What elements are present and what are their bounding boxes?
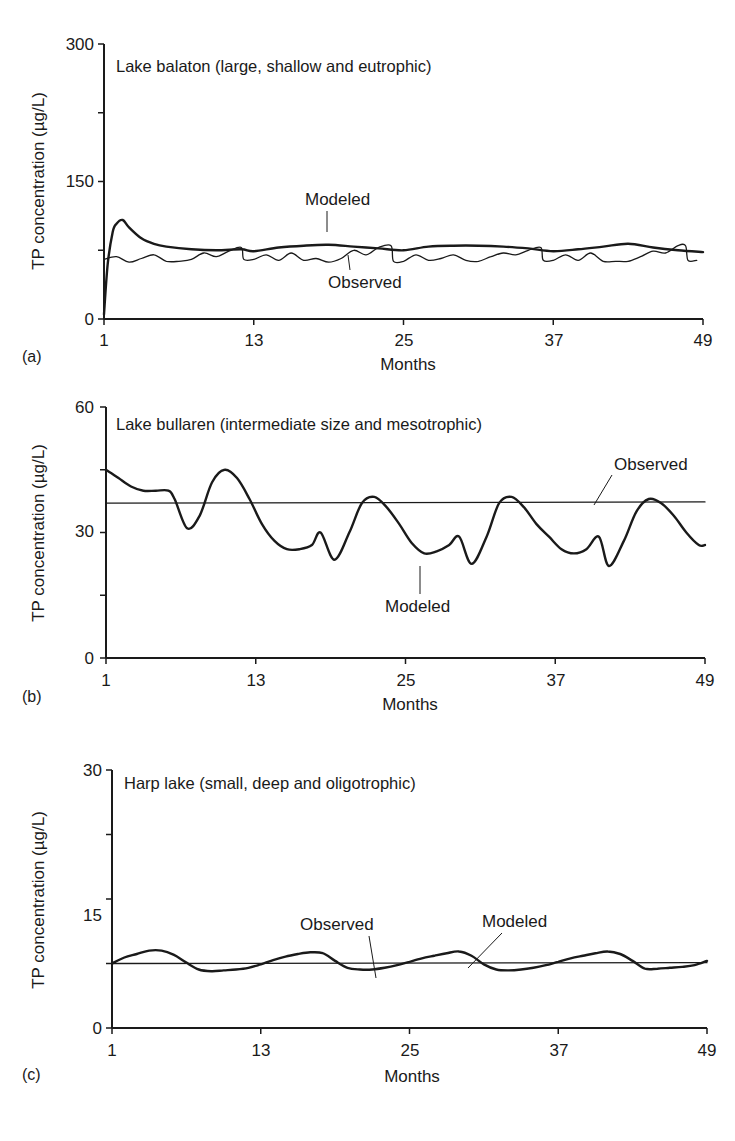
panel-c-annot-observed: Observed	[300, 915, 374, 934]
panel-a-ylabel: TP concentration (µg/L)	[29, 92, 48, 270]
panel-a-title: Lake balaton (large, shallow and eutroph…	[116, 57, 432, 75]
panel-b-ytick-0: 0	[85, 649, 94, 668]
panel-c-xtick-1: 1	[107, 1041, 116, 1060]
panel-b-xtick-49: 49	[696, 671, 715, 690]
panel-c-xtick-49: 49	[698, 1041, 717, 1060]
panel-c-chart: Harp lake (small, deep and oligotrophic)…	[22, 761, 716, 1086]
caption-remnant	[0, 1130, 735, 1141]
panel-a-annot-modeled: Modeled	[305, 190, 370, 209]
series-line-modeled	[104, 220, 703, 314]
panel-c-leader-observed	[369, 936, 376, 978]
panel-a-xtick-25: 25	[395, 331, 414, 350]
series-line-modeled	[112, 950, 707, 971]
panel-b-ytick-30: 30	[75, 522, 94, 541]
panel-c-axes	[106, 770, 707, 1034]
panel-b-xtick-13: 13	[247, 671, 266, 690]
panel-a-ytick-150: 150	[66, 172, 94, 191]
panel-a-chart: Lake balaton (large, shallow and eutroph…	[22, 35, 712, 374]
panel-a-xtick-1: 1	[99, 331, 108, 350]
panel-c-ylabel: TP concentration (µg/L)	[29, 811, 48, 989]
panel-c-ytick-0: 0	[93, 1019, 102, 1038]
panel-b-axes	[100, 407, 705, 664]
panel-a-xtick-13: 13	[245, 331, 264, 350]
panel-b-xlabel: Months	[382, 695, 438, 714]
panel-c-title: Harp lake (small, deep and oligotrophic)	[124, 774, 416, 792]
panel-b-lines	[106, 470, 705, 566]
panel-a-xlabel: Months	[380, 355, 436, 374]
panel-c-ytick-15: 15	[83, 906, 102, 925]
panel-b-title: Lake bullaren (intermediate size and mes…	[116, 415, 482, 433]
panel-b-xtick-1: 1	[101, 671, 110, 690]
series-line-observed	[106, 502, 705, 503]
figure-canvas: Lake balaton (large, shallow and eutroph…	[0, 0, 735, 1141]
panel-a-letter: (a)	[22, 348, 42, 365]
panel-c-xtick-13: 13	[252, 1041, 271, 1060]
panel-c-ytick-30: 30	[83, 761, 102, 780]
series-line-observed	[112, 963, 707, 964]
panel-a-xtick-49: 49	[694, 331, 713, 350]
panel-b-ylabel: TP concentration (µg/L)	[29, 444, 48, 622]
panel-c-lines	[112, 950, 707, 971]
panel-a-leader-observed	[348, 255, 350, 270]
panel-a-annot-observed: Observed	[328, 273, 402, 292]
panel-c-xtick-25: 25	[401, 1041, 420, 1060]
panel-b-ytick-60: 60	[75, 398, 94, 417]
panel-a-ytick-300: 300	[66, 35, 94, 54]
panel-c-xtick-37: 37	[550, 1041, 569, 1060]
panel-c-annot-modeled: Modeled	[482, 912, 547, 931]
panel-a-ytick-0: 0	[85, 310, 94, 329]
panel-b-xtick-37: 37	[547, 671, 566, 690]
panel-b-chart: Lake bullaren (intermediate size and mes…	[22, 398, 714, 714]
panel-b-xtick-25: 25	[397, 671, 416, 690]
panel-c-xlabel: Months	[384, 1067, 440, 1086]
series-line-modeled	[106, 470, 705, 566]
panel-b-annot-observed: Observed	[614, 455, 688, 474]
panel-b-letter: (b)	[22, 688, 42, 705]
panel-b-leader-observed	[594, 475, 612, 505]
panel-c-letter: (c)	[22, 1066, 41, 1083]
panel-a-xtick-37: 37	[545, 331, 564, 350]
panel-b-annot-modeled: Modeled	[385, 597, 450, 616]
panel-a-lines	[104, 220, 703, 314]
